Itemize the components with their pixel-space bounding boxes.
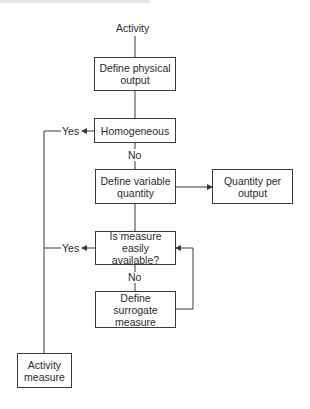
node-define-variable-quantity: Define variable quantity xyxy=(95,169,176,204)
node-activity-measure: Activity measure xyxy=(17,353,72,388)
node-define-surrogate-measure: Define surrogate measure xyxy=(95,291,176,328)
label-yes-homogeneous: Yes xyxy=(62,125,79,137)
start-label-activity: Activity xyxy=(116,22,149,34)
node-quantity-per-output: Quantity per output xyxy=(212,169,293,204)
node-homogeneous: Homogeneous xyxy=(94,118,176,143)
label-no-available: No xyxy=(128,271,141,283)
node-is-measure-available: Is measure easily available? xyxy=(95,231,176,265)
node-define-physical-output: Define physical output xyxy=(94,57,176,91)
label-no-homogeneous: No xyxy=(128,149,141,161)
label-yes-available: Yes xyxy=(62,242,79,254)
